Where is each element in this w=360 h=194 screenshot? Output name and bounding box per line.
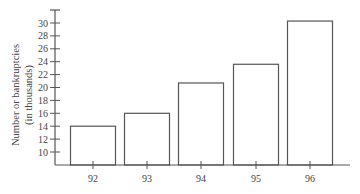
y-axis-label-line1: Number or bankruptcies <box>10 44 21 146</box>
y-tick-label: 12 <box>38 134 48 145</box>
y-axis-label: Number or bankruptcies (in thousands) <box>10 44 35 146</box>
y-tick-label: 22 <box>38 69 48 80</box>
y-tick-label: 18 <box>38 95 48 106</box>
bar-96 <box>288 21 333 165</box>
bars <box>71 21 333 165</box>
y-tick-label: 28 <box>38 30 48 41</box>
y-axis-label-line2: (in thousands) <box>23 65 35 125</box>
y-tick-label: 16 <box>38 108 48 119</box>
x-tick-label: 95 <box>251 173 261 184</box>
y-tick-label: 24 <box>38 56 48 67</box>
bar-95 <box>234 64 279 165</box>
y-tick-label: 30 <box>38 18 48 29</box>
x-tick-label: 92 <box>88 173 98 184</box>
x-tick-label: 96 <box>305 173 315 184</box>
bar-chart: Number or bankruptcies (in thousands) 10… <box>0 0 360 194</box>
y-tick-label: 14 <box>38 121 48 132</box>
x-axis: 9293949596 <box>55 161 350 184</box>
bar-93 <box>125 113 170 165</box>
x-tick-label: 94 <box>196 173 206 184</box>
y-tick-label: 10 <box>38 147 48 158</box>
bar-92 <box>71 126 116 165</box>
y-axis: 1012141618202224262830 <box>38 10 60 165</box>
x-tick-label: 93 <box>142 173 152 184</box>
bar-94 <box>179 83 224 165</box>
y-tick-label: 20 <box>38 82 48 93</box>
y-tick-label: 26 <box>38 43 48 54</box>
